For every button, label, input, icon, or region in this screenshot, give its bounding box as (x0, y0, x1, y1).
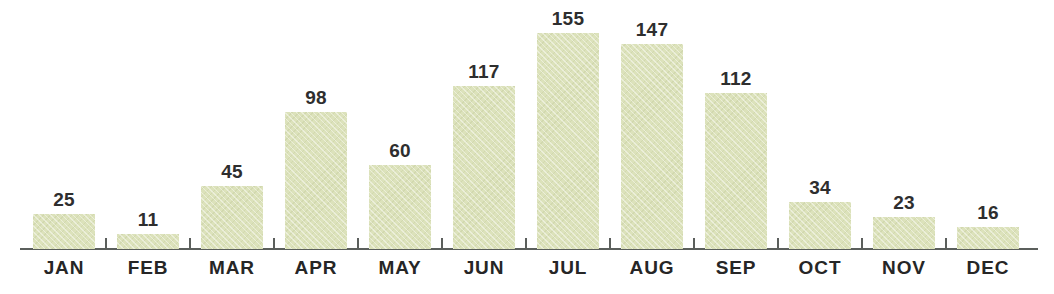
bar-group: 25 JAN (22, 0, 106, 294)
bar[interactable] (285, 112, 347, 249)
category-label: NOV (862, 258, 946, 277)
bar-group: 147 AUG (610, 0, 694, 294)
category-label: APR (274, 258, 358, 277)
category-label: MAR (190, 258, 274, 277)
category-label: OCT (778, 258, 862, 277)
category-label: JUN (442, 258, 526, 277)
bar-group: 45 MAR (190, 0, 274, 294)
bar[interactable] (789, 202, 851, 249)
bar[interactable] (621, 44, 683, 249)
bar-value-label: 16 (946, 203, 1030, 222)
bar-group: 112 SEP (694, 0, 778, 294)
plot-area: 25 JAN 11 FEB 45 MAR 98 APR 60 MAY 117 (0, 0, 1054, 294)
bar[interactable] (33, 214, 95, 249)
bar-group: 23 NOV (862, 0, 946, 294)
bar[interactable] (705, 93, 767, 249)
bar-group: 34 OCT (778, 0, 862, 294)
bar-value-label: 25 (22, 190, 106, 209)
category-label: AUG (610, 258, 694, 277)
bar-value-label: 98 (274, 88, 358, 107)
bar-chart: 25 JAN 11 FEB 45 MAR 98 APR 60 MAY 117 (0, 0, 1054, 294)
bar-value-label: 117 (442, 62, 526, 81)
bar-value-label: 45 (190, 162, 274, 181)
bar[interactable] (957, 227, 1019, 249)
bar-group: 98 APR (274, 0, 358, 294)
bar-value-label: 147 (610, 20, 694, 39)
bar-group: 11 FEB (106, 0, 190, 294)
bar-value-label: 112 (694, 69, 778, 88)
bar-value-label: 11 (106, 210, 190, 229)
category-label: JUL (526, 258, 610, 277)
bar-group: 16 DEC (946, 0, 1030, 294)
bar-value-label: 155 (526, 9, 610, 28)
category-label: JAN (22, 258, 106, 277)
category-label: FEB (106, 258, 190, 277)
bar[interactable] (201, 186, 263, 249)
category-label: SEP (694, 258, 778, 277)
bar-value-label: 60 (358, 141, 442, 160)
category-label: DEC (946, 258, 1030, 277)
bar[interactable] (537, 33, 599, 249)
bar-group: 117 JUN (442, 0, 526, 294)
bar-value-label: 23 (862, 193, 946, 212)
category-label: MAY (358, 258, 442, 277)
bar-group: 60 MAY (358, 0, 442, 294)
bar[interactable] (369, 165, 431, 249)
bar-value-label: 34 (778, 178, 862, 197)
bar[interactable] (453, 86, 515, 249)
bar[interactable] (117, 234, 179, 249)
bar-group: 155 JUL (526, 0, 610, 294)
bar[interactable] (873, 217, 935, 249)
